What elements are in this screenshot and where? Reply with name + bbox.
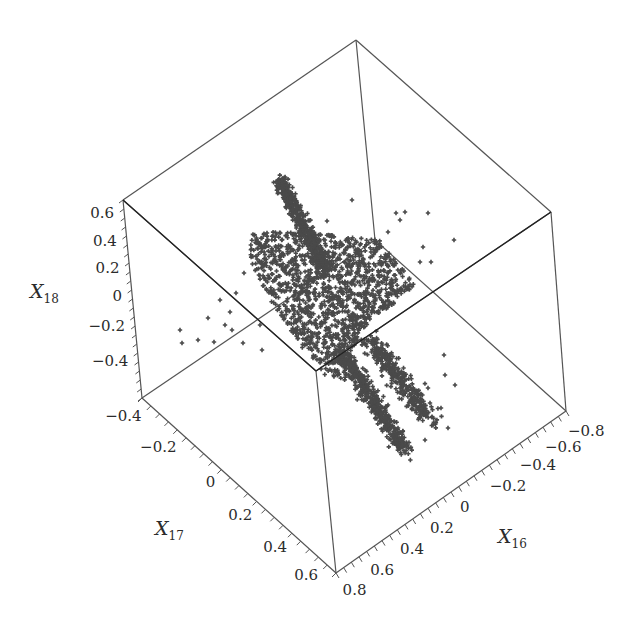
box-front-edges [123,200,551,371]
tick-label: −0.4 [520,456,556,474]
tick-label: 0.8 [343,581,367,599]
tick-label: −0.2 [89,317,125,335]
tick-label: −0.8 [568,422,604,440]
tick-label: −0.4 [92,352,128,370]
point-cloud [178,173,457,462]
tick-label: −0.2 [140,438,176,456]
tick-label: 0.6 [370,561,394,579]
tick-label: 0.2 [96,259,120,277]
tick-label: 0.4 [263,538,287,556]
tick-label: 0.6 [294,566,318,584]
tick-label: 0 [460,498,470,516]
tick-label: 0.2 [430,519,454,537]
tick-label: −0.2 [490,477,526,495]
tick-label: 0.6 [90,204,114,222]
x-axis-title: X16 [496,525,527,551]
plot-canvas: 0.60.40.20−0.2−0.4−0.4−0.200.20.40.60.80… [0,0,641,629]
z-axis-title: X18 [28,280,59,306]
tick-label: 0.4 [400,540,424,558]
tick-label: 0 [206,473,216,491]
tick-label: −0.4 [105,407,141,425]
3d-scatter-plot: 0.60.40.20−0.2−0.4−0.4−0.200.20.40.60.80… [0,0,641,629]
tick-label: 0 [113,287,123,305]
y-axis-title: X17 [153,517,184,543]
tick-label: −0.6 [545,438,581,456]
tick-label: 0.4 [93,232,117,250]
tick-label: 0.2 [228,506,252,524]
